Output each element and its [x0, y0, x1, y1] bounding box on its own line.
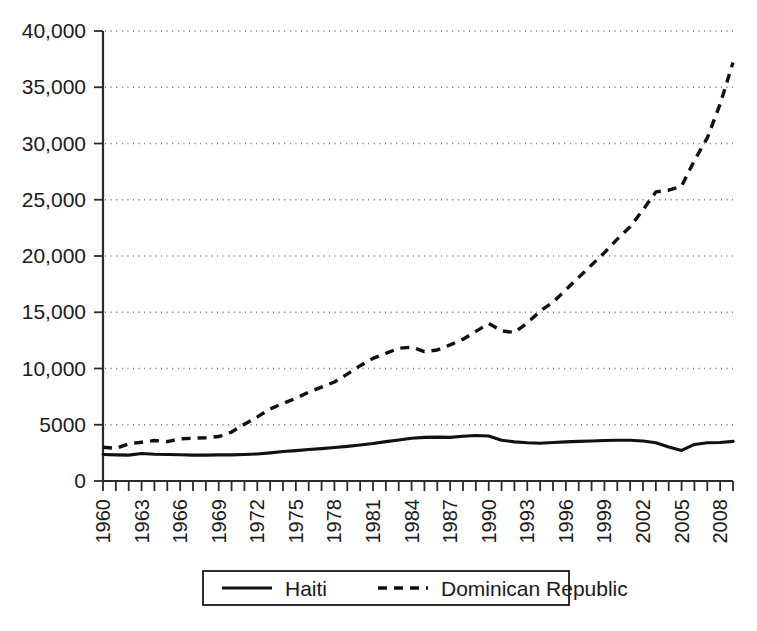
y-tick-label: 25,000: [22, 188, 86, 211]
x-tick-label: 1963: [131, 499, 153, 544]
data-series: [103, 63, 733, 456]
x-tick-label: 1984: [401, 499, 423, 544]
x-tick-label: 1981: [362, 499, 384, 544]
x-tick-label: 2002: [632, 499, 654, 544]
x-tick-marks: [103, 481, 733, 491]
y-tick-label: 30,000: [22, 132, 86, 155]
y-tick-label: 20,000: [22, 244, 86, 267]
x-tick-labels: 1960196319661969197219751978198119841987…: [92, 499, 731, 544]
y-tick-label: 15,000: [22, 300, 86, 323]
legend-label-dominican-republic: Dominican Republic: [441, 577, 628, 600]
x-tick-label: 1972: [246, 499, 268, 544]
x-axis: 1960196319661969197219751978198119841987…: [92, 481, 733, 544]
gridlines: [105, 31, 733, 425]
x-tick-label: 1975: [285, 499, 307, 544]
y-tick-label: 0: [74, 469, 86, 492]
y-tick-labels: 0500010,00015,00020,00025,00030,00035,00…: [22, 19, 86, 492]
x-tick-label: 1960: [92, 499, 114, 544]
x-tick-label: 1990: [478, 499, 500, 544]
y-tick-label: 40,000: [22, 19, 86, 42]
chart-legend: Haiti Dominican Republic: [203, 571, 628, 605]
series-line-haiti: [103, 435, 733, 455]
x-tick-label: 1969: [208, 499, 230, 544]
x-tick-label: 1987: [439, 499, 461, 544]
y-tick-label: 5000: [39, 413, 86, 436]
y-tick-label: 10,000: [22, 357, 86, 380]
x-tick-label: 1996: [555, 499, 577, 544]
x-tick-label: 1999: [593, 499, 615, 544]
y-tick-marks: [94, 31, 103, 481]
x-tick-label: 1993: [516, 499, 538, 544]
x-tick-label: 2005: [671, 499, 693, 544]
x-tick-label: 2008: [709, 499, 731, 544]
chart-canvas: 0500010,00015,00020,00025,00030,00035,00…: [0, 0, 757, 631]
series-line-dominican-republic: [103, 63, 733, 449]
legend-label-haiti: Haiti: [285, 577, 327, 600]
line-chart: 0500010,00015,00020,00025,00030,00035,00…: [0, 0, 757, 631]
y-axis: 0500010,00015,00020,00025,00030,00035,00…: [22, 19, 103, 492]
x-tick-label: 1966: [169, 499, 191, 544]
y-tick-label: 35,000: [22, 75, 86, 98]
x-tick-label: 1978: [323, 499, 345, 544]
